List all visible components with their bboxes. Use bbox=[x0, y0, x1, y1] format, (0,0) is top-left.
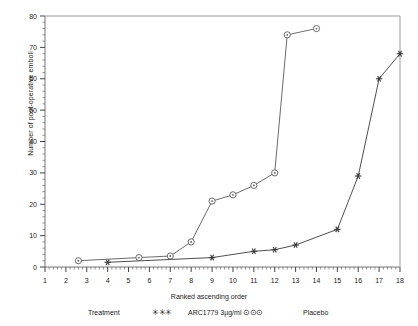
y-axis-label: Number of post-operative emboli bbox=[27, 14, 34, 194]
svg-text:20: 20 bbox=[29, 201, 37, 208]
data-point bbox=[104, 260, 110, 266]
svg-text:3: 3 bbox=[85, 277, 89, 284]
data-point bbox=[251, 182, 257, 188]
data-point bbox=[251, 249, 257, 255]
svg-text:6: 6 bbox=[147, 277, 151, 284]
legend-series-placebo-label: Placebo bbox=[303, 309, 328, 316]
legend-series-arc1779-label: ARC1779 3µg/ml bbox=[188, 309, 241, 316]
x-axis-ticks: 123456789101112131415161718 bbox=[43, 267, 404, 284]
data-point bbox=[230, 192, 236, 198]
data-point bbox=[272, 170, 278, 176]
chart-figure: Number of post-operative emboli Ranked a… bbox=[0, 0, 418, 326]
svg-text:10: 10 bbox=[29, 232, 37, 239]
series-arc1779-3-g-ml bbox=[104, 51, 403, 265]
svg-text:14: 14 bbox=[313, 277, 321, 284]
data-point bbox=[75, 258, 81, 264]
plot-area: 1234567891011121314151617180102030405060… bbox=[0, 0, 418, 300]
svg-text:11: 11 bbox=[250, 277, 257, 284]
plot-frame bbox=[45, 16, 400, 267]
data-point bbox=[136, 254, 142, 260]
data-point bbox=[188, 239, 194, 245]
svg-text:13: 13 bbox=[292, 277, 300, 284]
svg-text:12: 12 bbox=[271, 277, 279, 284]
legend-circle-marker-icon: ⊙⊙⊙ bbox=[243, 308, 263, 317]
legend-treatment-heading: Treatment bbox=[88, 309, 120, 316]
data-point bbox=[292, 242, 298, 248]
svg-text:18: 18 bbox=[396, 277, 404, 284]
svg-text:2: 2 bbox=[64, 277, 68, 284]
svg-text:7: 7 bbox=[168, 277, 172, 284]
svg-text:15: 15 bbox=[333, 277, 341, 284]
x-axis-label: Ranked ascending order bbox=[0, 293, 418, 300]
chart-legend: Treatment ✳✳✳ ARC1779 3µg/ml ⊙⊙⊙ Placebo bbox=[0, 307, 418, 321]
svg-text:5: 5 bbox=[127, 277, 131, 284]
data-point bbox=[167, 253, 173, 259]
data-point bbox=[209, 198, 215, 204]
svg-text:0: 0 bbox=[33, 264, 37, 271]
svg-text:1: 1 bbox=[43, 277, 47, 284]
legend-star-marker-icon: ✳✳✳ bbox=[152, 308, 172, 317]
data-point bbox=[313, 25, 319, 31]
svg-text:10: 10 bbox=[229, 277, 237, 284]
data-point bbox=[272, 247, 278, 253]
data-point bbox=[334, 227, 340, 233]
axis-spines bbox=[45, 16, 400, 267]
svg-text:16: 16 bbox=[354, 277, 362, 284]
data-point bbox=[284, 32, 290, 38]
svg-text:4: 4 bbox=[106, 277, 110, 284]
svg-text:9: 9 bbox=[210, 277, 214, 284]
series-placebo bbox=[75, 25, 319, 263]
svg-text:17: 17 bbox=[375, 277, 383, 284]
svg-text:8: 8 bbox=[189, 277, 193, 284]
data-point bbox=[209, 255, 215, 261]
